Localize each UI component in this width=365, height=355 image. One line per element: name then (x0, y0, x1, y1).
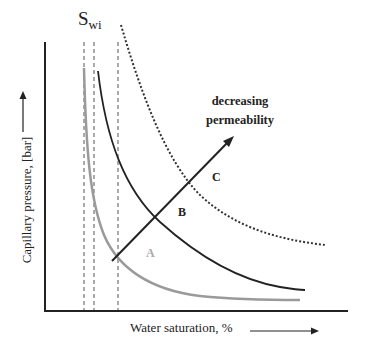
trend-label-line2: permeability (195, 111, 285, 130)
swi-label-main: S (78, 8, 89, 29)
decreasing-permeability-arrow (112, 136, 234, 261)
x-axis-direction-arrow (250, 328, 319, 335)
y-axis-label: Capillary pressure, [bar] (19, 115, 35, 285)
x-axis-label: Water saturation, % (130, 320, 233, 336)
curve-c-label: C (212, 170, 221, 185)
swi-label-subscript: wi (89, 17, 102, 32)
decreasing-permeability-label: decreasing permeability (195, 92, 285, 130)
trend-label-line1: decreasing (195, 92, 285, 111)
curve-c (121, 25, 326, 245)
curve-b-label: B (178, 205, 186, 220)
swi-label: Swi (78, 8, 102, 33)
curve-a-label: A (146, 246, 155, 261)
capillary-pressure-diagram (0, 0, 365, 355)
